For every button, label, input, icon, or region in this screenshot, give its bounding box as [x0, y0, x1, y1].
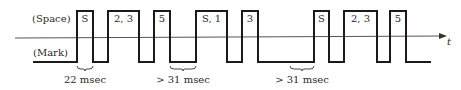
brace-icon [290, 66, 314, 71]
pulse-label: 2, 3 [114, 13, 133, 24]
pulse-label: 5 [395, 13, 401, 24]
interval-label: > 31 msec [275, 74, 329, 85]
mark-level-label: (Mark) [33, 47, 68, 58]
axis-arrow-icon [439, 33, 447, 39]
time-axis [15, 36, 445, 38]
brace-icon [77, 66, 93, 71]
pulse-label: S, 1 [202, 13, 221, 24]
space-level-label: (Space) [32, 13, 71, 24]
interval-label: 22 msec [64, 74, 106, 85]
timing-diagram: t (Space) (Mark) S2, 35S, 13S2, 35 22 ms… [0, 0, 461, 90]
interval-braces: 22 msec> 31 msec> 31 msec [64, 66, 329, 85]
pulse-label: 2, 3 [351, 13, 370, 24]
axis-label-t: t [447, 36, 452, 47]
pulse-label: 5 [159, 13, 165, 24]
brace-icon [170, 66, 196, 71]
interval-label: > 31 msec [156, 74, 210, 85]
pulse-label: 3 [247, 13, 253, 24]
pulse-label: S [318, 13, 325, 24]
pulse-label: S [82, 13, 89, 24]
